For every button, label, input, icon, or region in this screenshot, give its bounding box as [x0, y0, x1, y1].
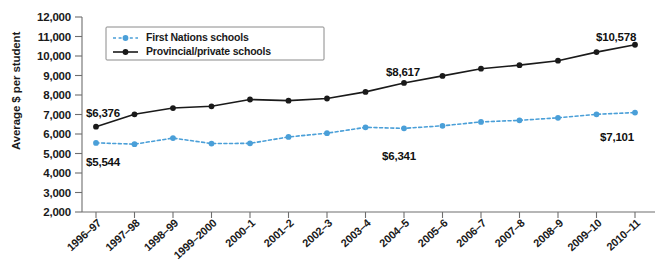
series-point [478, 66, 484, 72]
x-axis-ticks: 1996–971997–981998–991999–20002000–12001… [65, 212, 643, 261]
x-tick-label: 2004–5 [377, 217, 411, 250]
series-point [363, 124, 369, 130]
x-tick-label: 2005–6 [415, 217, 449, 250]
y-tick-label: 2,000 [43, 206, 71, 218]
series-point [93, 140, 99, 146]
series-point [632, 110, 638, 116]
data-label: $5,544 [86, 156, 121, 168]
x-tick-label: 2001–2 [261, 217, 295, 250]
x-tick-label: 2006–7 [454, 217, 488, 250]
legend-label: First Nations schools [146, 31, 249, 43]
series-point [286, 98, 292, 104]
series-point [401, 125, 407, 131]
legend-swatch-marker [123, 49, 129, 55]
series-point [517, 117, 523, 123]
series-point [324, 96, 330, 102]
y-tick-label: 4,000 [43, 167, 71, 179]
series-point [209, 103, 215, 109]
y-tick-label: 5,000 [43, 148, 71, 160]
series-point [594, 49, 600, 55]
x-tick-label: 1998–99 [142, 217, 181, 254]
y-tick-label: 12,000 [37, 11, 71, 23]
data-label: $6,376 [86, 107, 120, 119]
y-axis-title-text: Average $ per student [10, 31, 22, 150]
series-point [478, 119, 484, 125]
series-point [555, 115, 561, 121]
series-point [324, 130, 330, 136]
x-tick-label: 1996–97 [65, 217, 104, 254]
chart-legend: First Nations schoolsProvincial/private … [106, 27, 324, 60]
x-tick-label: 1999–2000 [171, 217, 219, 262]
y-tick-label: 9,000 [43, 70, 71, 82]
series-point [440, 123, 446, 129]
series-point [440, 73, 446, 79]
series-point [93, 124, 99, 130]
data-label: $6,341 [382, 150, 417, 162]
series-point [517, 62, 523, 68]
series-point [209, 141, 215, 147]
x-tick-label: 2002–3 [300, 217, 334, 250]
x-tick-label: 2010–11 [604, 217, 642, 253]
x-tick-label: 2003–4 [338, 216, 373, 249]
series-point [132, 111, 138, 117]
y-tick-label: 8,000 [43, 89, 71, 101]
series-point [286, 134, 292, 140]
series-point [132, 141, 138, 147]
x-tick-label: 2000–1 [223, 217, 257, 250]
series-point [401, 80, 407, 86]
y-tick-label: 3,000 [43, 187, 71, 199]
y-tick-label: 7,000 [43, 109, 71, 121]
y-tick-label: 6,000 [43, 128, 71, 140]
y-axis-ticks: 2,0003,0004,0005,0006,0007,0008,0009,000… [37, 11, 82, 218]
series-point [170, 105, 176, 111]
chart-container: Average $ per student 2,0003,0004,0005,0… [0, 0, 663, 268]
data-label: $8,617 [386, 66, 420, 78]
series-point [247, 140, 253, 146]
x-tick-label: 1997–98 [103, 217, 142, 254]
series-point [555, 58, 561, 64]
legend-label: Provincial/private schools [146, 45, 271, 57]
y-tick-label: 11,000 [38, 31, 71, 43]
data-label: $10,578 [596, 31, 637, 43]
x-tick-label: 2008–9 [531, 217, 565, 250]
y-axis-title: Average $ per student [10, 31, 22, 150]
series-point [363, 89, 369, 95]
series-point [247, 97, 253, 103]
x-tick-label: 2007–8 [492, 217, 526, 250]
data-label: $7,101 [600, 131, 635, 143]
series-point [170, 135, 176, 141]
y-tick-label: 10,000 [37, 50, 71, 62]
line-chart: Average $ per student 2,0003,0004,0005,0… [0, 0, 663, 268]
legend-swatch-marker [123, 35, 129, 41]
series-point [594, 111, 600, 117]
x-tick-label: 2009–10 [565, 217, 604, 254]
